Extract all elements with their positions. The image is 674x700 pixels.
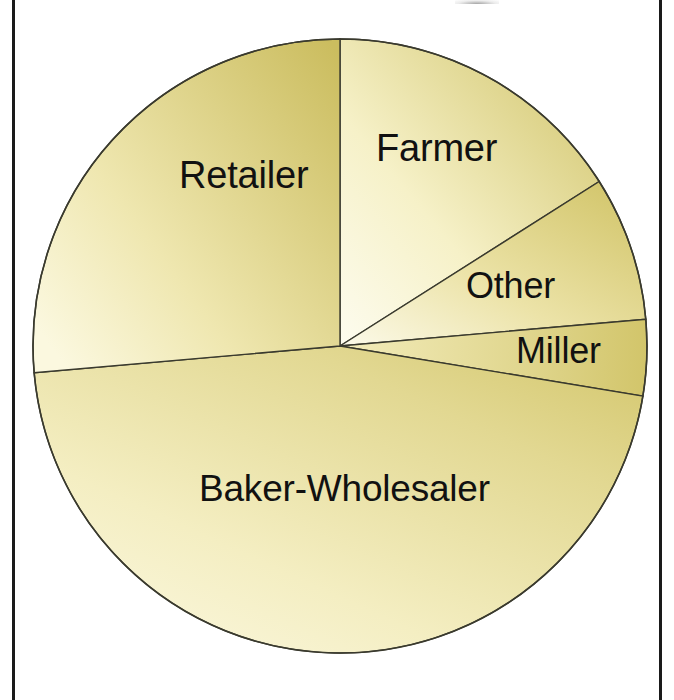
slice-label-miller: Miller <box>516 333 601 369</box>
slice-label-baker-wholesaler: Baker-Wholesaler <box>199 470 490 507</box>
slice-label-other: Other <box>466 268 555 304</box>
figure-page: Farmer Retailer Other Miller Baker-Whole… <box>0 0 674 700</box>
pie-chart: Farmer Retailer Other Miller Baker-Whole… <box>0 0 674 700</box>
slice-label-farmer: Farmer <box>376 129 497 167</box>
slice-label-retailer: Retailer <box>179 156 308 194</box>
pie-slice-retailer[interactable] <box>33 39 340 373</box>
